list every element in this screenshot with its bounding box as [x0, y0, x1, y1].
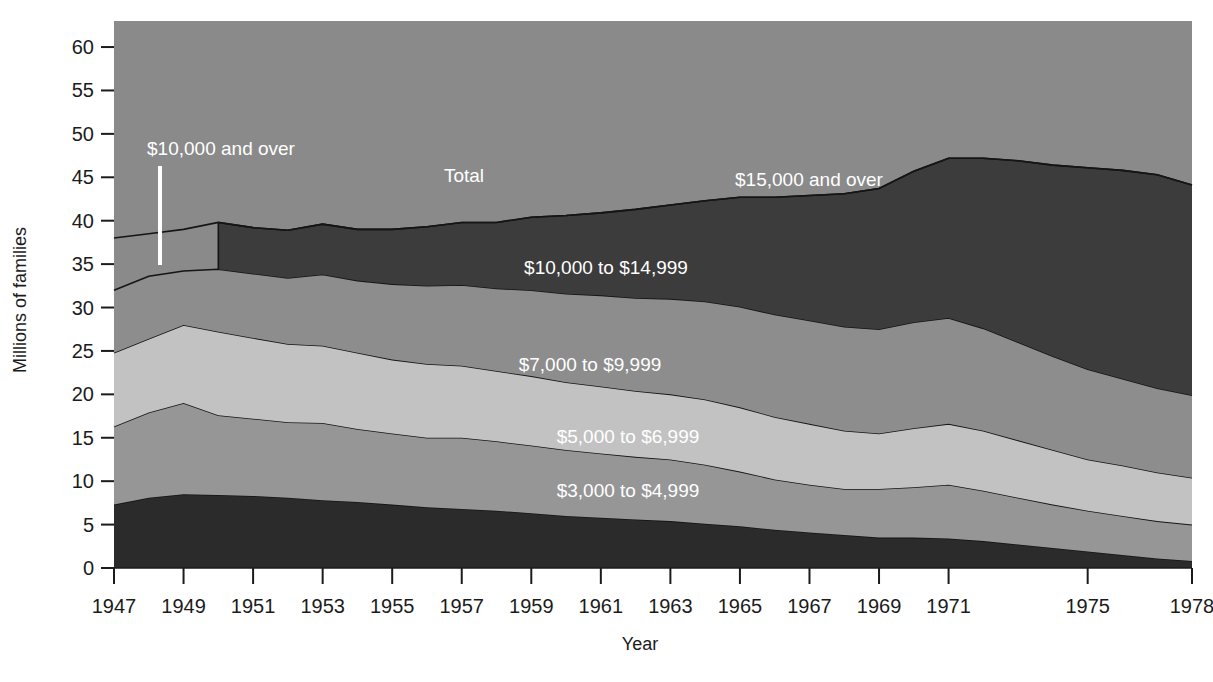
band-label-6: $3,000 to $4,999 [557, 480, 700, 501]
income-distribution-area-chart: 0510152025303540455055601947194919511953… [0, 0, 1213, 682]
x-tick-label-1965: 1965 [718, 595, 763, 617]
band-label-5: $5,000 to $6,999 [557, 426, 700, 447]
x-tick-label-1971: 1971 [926, 595, 971, 617]
y-tick-label-45: 45 [72, 166, 94, 188]
x-tick-label-1957: 1957 [439, 595, 484, 617]
y-tick-label-60: 60 [72, 36, 94, 58]
y-tick-label-15: 15 [72, 427, 94, 449]
x-tick-label-1978: 1978 [1170, 595, 1213, 617]
x-tick-label-1975: 1975 [1065, 595, 1110, 617]
x-tick-label-1953: 1953 [300, 595, 345, 617]
band-label-2: $15,000 and over [735, 169, 884, 190]
x-tick-label-1955: 1955 [370, 595, 415, 617]
band-label-3: $10,000 to $14,999 [524, 257, 688, 278]
y-tick-label-55: 55 [72, 79, 94, 101]
y-tick-label-25: 25 [72, 340, 94, 362]
chart-canvas: 0510152025303540455055601947194919511953… [0, 0, 1213, 682]
y-tick-label-40: 40 [72, 210, 94, 232]
y-tick-label-5: 5 [83, 514, 94, 536]
band-label-0: $10,000 and over [147, 138, 296, 159]
y-tick-label-50: 50 [72, 123, 94, 145]
x-tick-label-1961: 1961 [579, 595, 624, 617]
x-tick-label-1969: 1969 [857, 595, 902, 617]
x-tick-label-1963: 1963 [648, 595, 693, 617]
band-label-1: Total [444, 165, 484, 186]
x-tick-label-1951: 1951 [231, 595, 276, 617]
y-tick-label-35: 35 [72, 253, 94, 275]
y-tick-label-20: 20 [72, 383, 94, 405]
x-tick-label-1949: 1949 [161, 595, 206, 617]
y-axis-title: Millions of families [10, 227, 30, 373]
x-tick-label-1959: 1959 [509, 595, 554, 617]
x-tick-label-1967: 1967 [787, 595, 832, 617]
band-label-4: $7,000 to $9,999 [519, 354, 662, 375]
y-tick-label-30: 30 [72, 297, 94, 319]
y-tick-label-0: 0 [83, 557, 94, 579]
x-tick-label-1947: 1947 [92, 595, 137, 617]
x-axis-title: Year [622, 634, 658, 654]
y-tick-label-10: 10 [72, 470, 94, 492]
